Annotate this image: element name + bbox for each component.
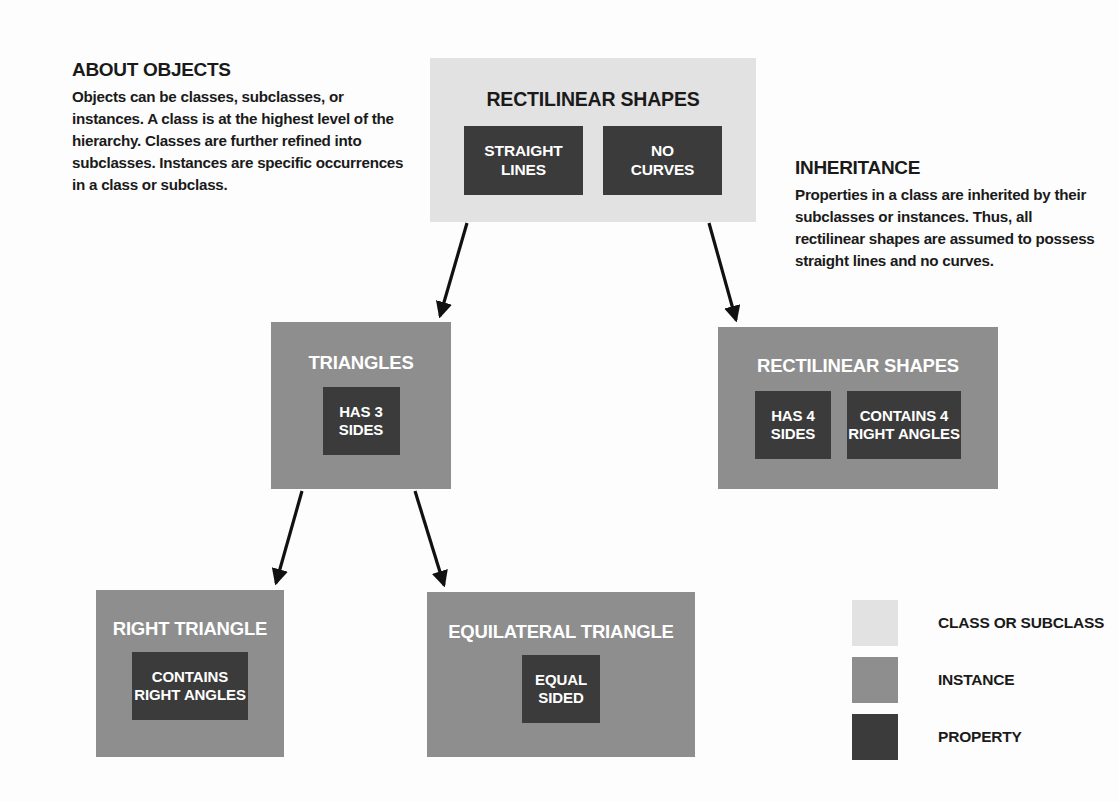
property-has-3-sides[interactable]: HAS 3 SIDES <box>323 387 400 455</box>
legend-swatch-instance-icon <box>852 657 898 703</box>
property-line-2: SIDES <box>339 421 384 439</box>
node-title: RECTILINEAR SHAPES <box>757 355 959 377</box>
property-list: EQUAL SIDED <box>522 655 600 723</box>
node-triangles-instance[interactable]: TRIANGLES HAS 3 SIDES <box>271 322 451 489</box>
node-title: EQUILATERAL TRIANGLE <box>448 621 674 643</box>
note-about-objects-body: Objects can be classes, subclasses, or i… <box>72 86 417 195</box>
property-line-2: SIDED <box>535 689 587 707</box>
legend-item-class-or-subclass: CLASS OR SUBCLASS <box>852 594 1104 651</box>
note-inheritance-body: Properties in a class are inherited by t… <box>795 184 1095 272</box>
property-no-curves[interactable]: NO CURVES <box>603 126 722 195</box>
property-line-1: HAS 4 <box>771 407 816 425</box>
property-line-2: RIGHT ANGLES <box>134 686 246 704</box>
property-equal-sided[interactable]: EQUAL SIDED <box>522 655 600 723</box>
legend-item-instance: INSTANCE <box>852 651 1104 708</box>
property-list: STRAIGHT LINES NO CURVES <box>464 126 722 195</box>
note-inheritance: INHERITANCE Properties in a class are in… <box>795 158 1095 272</box>
diagram-canvas: ABOUT OBJECTS Objects can be classes, su… <box>0 0 1119 802</box>
property-list: HAS 4 SIDES CONTAINS 4 RIGHT ANGLES <box>755 391 961 459</box>
property-contains-4-right-angles[interactable]: CONTAINS 4 RIGHT ANGLES <box>847 391 961 459</box>
node-rectilinear-shapes-class[interactable]: RECTILINEAR SHAPES STRAIGHT LINES NO CUR… <box>430 58 756 222</box>
property-line-1: NO <box>631 142 695 160</box>
edge-triangles-to-right-triangle <box>276 491 302 583</box>
node-equilateral-triangle-instance[interactable]: EQUILATERAL TRIANGLE EQUAL SIDED <box>427 592 695 757</box>
node-title: RECTILINEAR SHAPES <box>486 88 699 111</box>
note-inheritance-title: INHERITANCE <box>795 158 1095 177</box>
property-line-2: CURVES <box>631 161 695 179</box>
note-about-objects: ABOUT OBJECTS Objects can be classes, su… <box>72 60 417 195</box>
property-line-1: HAS 3 <box>339 403 384 421</box>
property-list: CONTAINS RIGHT ANGLES <box>132 652 248 720</box>
property-list: HAS 3 SIDES <box>323 387 400 455</box>
legend-label: PROPERTY <box>938 728 1022 746</box>
property-contains-right-angles[interactable]: CONTAINS RIGHT ANGLES <box>132 652 248 720</box>
property-line-1: STRAIGHT <box>484 142 562 160</box>
note-about-objects-title: ABOUT OBJECTS <box>72 60 417 79</box>
node-title: RIGHT TRIANGLE <box>113 618 267 640</box>
edge-triangles-to-equilateral <box>415 491 444 585</box>
node-title: TRIANGLES <box>308 352 413 374</box>
property-line-2: RIGHT ANGLES <box>848 425 960 443</box>
property-line-1: EQUAL <box>535 671 587 689</box>
legend-swatch-class-icon <box>852 600 898 646</box>
property-line-2: SIDES <box>771 425 816 443</box>
property-line-1: CONTAINS <box>134 668 246 686</box>
edge-root-to-rectilinear <box>709 223 736 320</box>
legend-swatch-property-icon <box>852 714 898 760</box>
legend-label: INSTANCE <box>938 671 1014 689</box>
node-rectilinear-shapes-instance[interactable]: RECTILINEAR SHAPES HAS 4 SIDES CONTAINS … <box>718 327 998 489</box>
legend-label: CLASS OR SUBCLASS <box>938 614 1104 632</box>
property-straight-lines[interactable]: STRAIGHT LINES <box>464 126 583 195</box>
edge-root-to-triangles <box>440 223 467 316</box>
property-has-4-sides[interactable]: HAS 4 SIDES <box>755 391 831 459</box>
node-right-triangle-instance[interactable]: RIGHT TRIANGLE CONTAINS RIGHT ANGLES <box>96 590 284 757</box>
legend: CLASS OR SUBCLASS INSTANCE PROPERTY <box>852 594 1104 765</box>
property-line-2: LINES <box>484 161 562 179</box>
legend-item-property: PROPERTY <box>852 708 1104 765</box>
property-line-1: CONTAINS 4 <box>848 407 960 425</box>
